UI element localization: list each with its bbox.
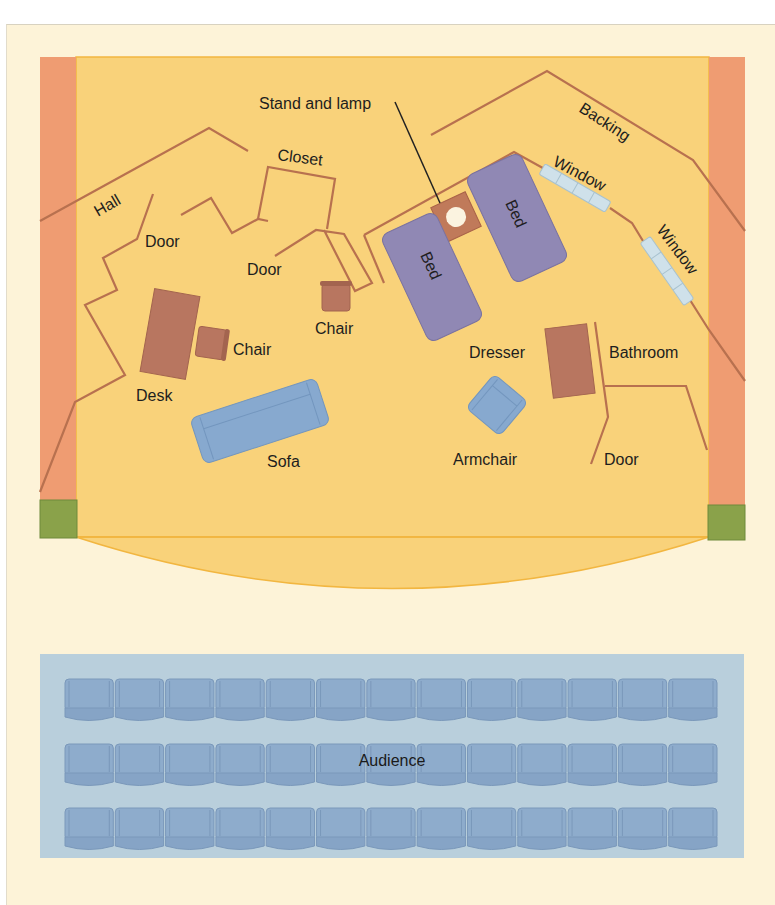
corner-block-left bbox=[40, 500, 77, 538]
audience-seat bbox=[166, 808, 214, 850]
audience-seat bbox=[266, 744, 314, 786]
audience-seat bbox=[115, 744, 163, 786]
audience-seat bbox=[518, 808, 566, 850]
audience-seat bbox=[115, 808, 163, 850]
dresser bbox=[545, 324, 595, 399]
audience-seat bbox=[317, 744, 365, 786]
audience-seat bbox=[568, 679, 616, 721]
label-audience: Audience bbox=[359, 752, 426, 769]
audience-seat bbox=[367, 808, 415, 850]
audience-seat bbox=[518, 744, 566, 786]
audience-seat bbox=[216, 679, 264, 721]
audience-seat bbox=[166, 679, 214, 721]
corner-block-right bbox=[708, 505, 745, 540]
audience-seat bbox=[115, 679, 163, 721]
audience-seat bbox=[317, 679, 365, 721]
audience-seat bbox=[669, 744, 717, 786]
audience-seat bbox=[65, 679, 113, 721]
label-sofa: Sofa bbox=[267, 453, 300, 470]
audience-area: Audience bbox=[40, 654, 744, 858]
audience-seat bbox=[266, 808, 314, 850]
audience-seat bbox=[166, 744, 214, 786]
audience-seat bbox=[618, 808, 666, 850]
audience-seat bbox=[417, 808, 465, 850]
audience-seat bbox=[568, 808, 616, 850]
audience-seat bbox=[216, 744, 264, 786]
audience-seat bbox=[367, 679, 415, 721]
audience-seat bbox=[467, 808, 515, 850]
audience-seat bbox=[266, 679, 314, 721]
audience-seat bbox=[568, 744, 616, 786]
label-door-3: Door bbox=[604, 451, 639, 468]
audience-seat bbox=[467, 679, 515, 721]
audience-seat bbox=[669, 808, 717, 850]
audience-seat bbox=[65, 744, 113, 786]
label-dresser: Dresser bbox=[469, 344, 526, 361]
audience-seat bbox=[317, 808, 365, 850]
audience-seat bbox=[216, 808, 264, 850]
audience-seat bbox=[618, 744, 666, 786]
chair-desk bbox=[195, 325, 230, 361]
audience-seat bbox=[65, 808, 113, 850]
audience-seat bbox=[618, 679, 666, 721]
proscenium-left bbox=[40, 57, 76, 500]
proscenium-right bbox=[709, 57, 745, 505]
audience-seat bbox=[669, 679, 717, 721]
label-bathroom: Bathroom bbox=[609, 344, 678, 361]
label-chair-center: Chair bbox=[315, 320, 354, 337]
label-stand-and-lamp: Stand and lamp bbox=[259, 95, 371, 112]
label-armchair: Armchair bbox=[453, 451, 518, 468]
audience-seat bbox=[417, 679, 465, 721]
seat-row bbox=[65, 679, 717, 721]
label-door-2: Door bbox=[247, 261, 282, 278]
label-desk: Desk bbox=[136, 387, 173, 404]
chair-center bbox=[320, 281, 352, 311]
seat-row bbox=[65, 808, 717, 850]
label-chair-desk: Chair bbox=[233, 341, 272, 358]
audience-seat bbox=[518, 679, 566, 721]
label-door-1: Door bbox=[145, 233, 180, 250]
audience-seat bbox=[467, 744, 515, 786]
